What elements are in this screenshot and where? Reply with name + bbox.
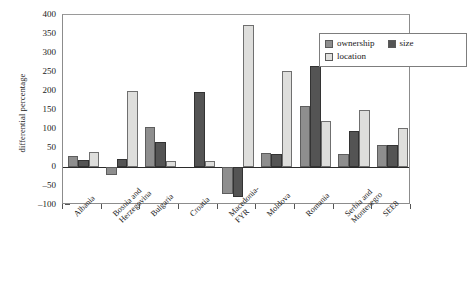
bar-size-3	[194, 92, 205, 167]
legend-row-1: ownership size	[325, 37, 462, 50]
x-axis-tick	[255, 204, 256, 209]
bar-ownership-7	[338, 154, 349, 167]
x-axis-tick	[217, 204, 218, 209]
legend-item-location: location	[325, 52, 366, 61]
x-axis-tick	[410, 204, 411, 209]
y-axis-tick-label: 350	[10, 29, 56, 38]
chart-legend: ownership size location	[319, 33, 467, 67]
legend-item-ownership: ownership	[325, 39, 375, 48]
bar-location-4	[243, 25, 254, 168]
x-axis-tick	[178, 204, 179, 209]
x-axis-tick	[333, 204, 334, 209]
bar-location-0	[89, 152, 100, 167]
y-axis-tick	[65, 204, 70, 205]
y-axis-tick-label: 0	[10, 162, 56, 171]
x-axis-tick	[294, 204, 295, 209]
y-axis-tick-label: 400	[10, 10, 56, 19]
x-axis-tick	[371, 204, 372, 209]
y-axis-labels: 400350300250200150100500–50–100	[8, 0, 56, 282]
x-axis-tick	[62, 204, 63, 209]
bar-ownership-0	[68, 156, 79, 167]
y-axis-tick-label: 150	[10, 105, 56, 114]
bar-ownership-5	[261, 153, 272, 167]
bar-size-0	[78, 160, 89, 167]
legend-swatch-location-icon	[325, 53, 333, 61]
x-axis-tick	[101, 204, 102, 209]
y-axis-tick-label: –100	[10, 200, 56, 209]
legend-item-size: size	[388, 39, 414, 48]
y-axis-tick-label: 100	[10, 124, 56, 133]
legend-label-location: location	[337, 52, 366, 61]
legend-swatch-size-icon	[388, 40, 396, 48]
legend-row-2: location	[325, 50, 462, 63]
y-axis-tick-label: 300	[10, 48, 56, 57]
x-axis-tick	[139, 204, 140, 209]
y-axis-tick-label: 250	[10, 67, 56, 76]
y-axis-tick-label: 200	[10, 86, 56, 95]
legend-swatch-ownership-icon	[325, 40, 333, 48]
y-axis-tick-label: –50	[10, 181, 56, 190]
y-axis-tick-label: 50	[10, 143, 56, 152]
legend-label-size: size	[400, 39, 414, 48]
legend-label-ownership: ownership	[337, 39, 375, 48]
